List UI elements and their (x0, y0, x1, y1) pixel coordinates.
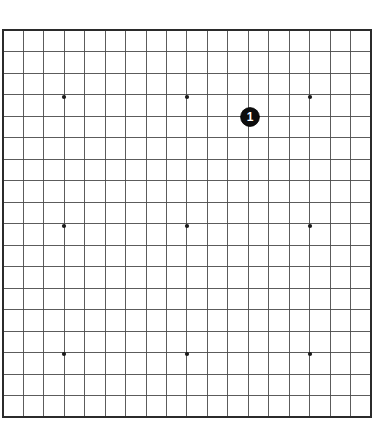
star-point-lower-right (308, 352, 312, 356)
star-point-middle-left (62, 224, 66, 228)
star-point-middle-right (308, 224, 312, 228)
star-point-lower-left (62, 352, 66, 356)
stone-move-1[interactable]: 1 (241, 108, 260, 127)
stone-move-1-disc[interactable] (241, 108, 260, 127)
star-point-upper-left (62, 95, 66, 99)
stones[interactable]: 1 (241, 108, 260, 127)
star-point-lower-middle (185, 352, 189, 356)
go-board-svg[interactable]: 1 (0, 0, 383, 435)
star-point-upper-right (308, 95, 312, 99)
star-point-upper-middle (185, 95, 189, 99)
go-board-diagram: 1 (0, 0, 383, 435)
star-point-center (185, 224, 189, 228)
board-background (0, 0, 383, 435)
